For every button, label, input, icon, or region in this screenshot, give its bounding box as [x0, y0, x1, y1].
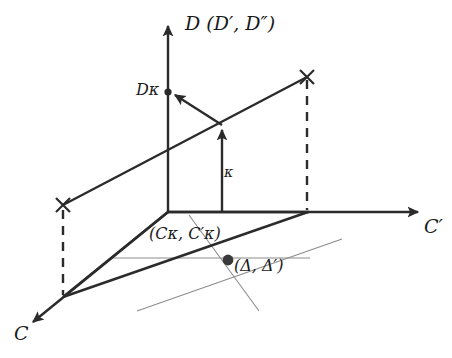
d-kappa-label: Dκ — [136, 82, 159, 98]
d-kappa-point-marker — [164, 88, 171, 95]
delta-point-marker — [223, 255, 234, 266]
c-kappa-pair-label: (Cκ, C′κ) — [149, 226, 221, 242]
cross-marker-lower — [56, 198, 70, 212]
axis-c-label: C — [14, 324, 29, 343]
kappa-label: κ — [224, 165, 233, 179]
axis-c-prime-label: C′ — [424, 217, 443, 236]
axis-d-label: D (D′, D″) — [185, 14, 275, 33]
gray-diagonal-line-a — [137, 239, 342, 311]
delta-pair-label: (Δ, Δ′) — [234, 258, 283, 274]
d-kappa-arrow — [175, 95, 222, 125]
figure-canvas: D (D′, D″) C′ C Dκ κ (Cκ, C′κ) (Δ, Δ′) — [0, 0, 452, 358]
main-diagonal-line — [63, 77, 307, 205]
